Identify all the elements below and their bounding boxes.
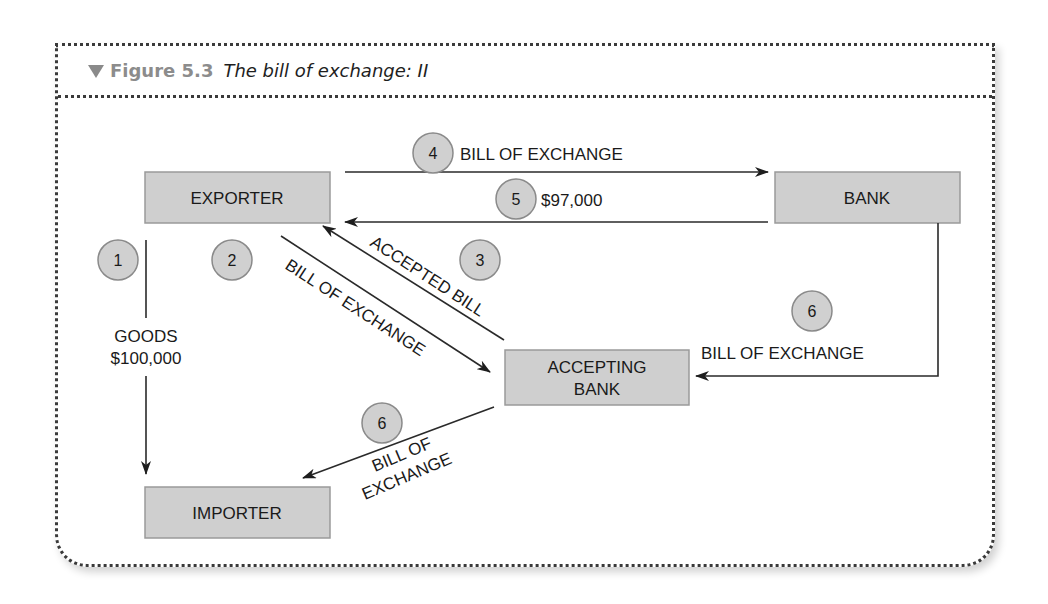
importer-label: IMPORTER (192, 504, 281, 523)
step-1-label-line1: GOODS (114, 327, 177, 346)
step-6a-arrow: 6 BILL OF EXCHANGE (696, 223, 938, 376)
step-6b-number: 6 (378, 415, 387, 432)
step-1-arrow: 1 GOODS $100,000 (98, 240, 181, 474)
bank-node: BANK (775, 172, 960, 223)
step-5-number: 5 (512, 191, 521, 208)
step-6b-arrow: 6 BILL OF EXCHANGE (303, 403, 494, 504)
step-6a-number: 6 (808, 303, 817, 320)
step-4-label: BILL OF EXCHANGE (460, 145, 623, 164)
step-1-number: 1 (114, 252, 123, 269)
step-1-label-line2: $100,000 (111, 349, 182, 368)
accepting-bank-label-line1: ACCEPTING (547, 358, 646, 377)
exporter-label: EXPORTER (190, 189, 283, 208)
step-2-number: 2 (228, 252, 237, 269)
step-6a-label: BILL OF EXCHANGE (701, 344, 864, 363)
accepting-bank-node: ACCEPTING BANK (505, 350, 689, 405)
bill-of-exchange-diagram: EXPORTER BANK ACCEPTING BANK IMPORTER 4 … (0, 0, 1048, 604)
step-4-number: 4 (429, 145, 438, 162)
importer-node: IMPORTER (145, 487, 330, 538)
exporter-node: EXPORTER (145, 172, 330, 223)
step-4-arrow: 4 BILL OF EXCHANGE (345, 133, 768, 173)
step-3-number: 3 (476, 252, 485, 269)
bank-label: BANK (844, 189, 891, 208)
step-5-arrow: 5 $97,000 (345, 179, 768, 222)
accepting-bank-label-line2: BANK (574, 380, 621, 399)
step-5-label: $97,000 (541, 191, 602, 210)
